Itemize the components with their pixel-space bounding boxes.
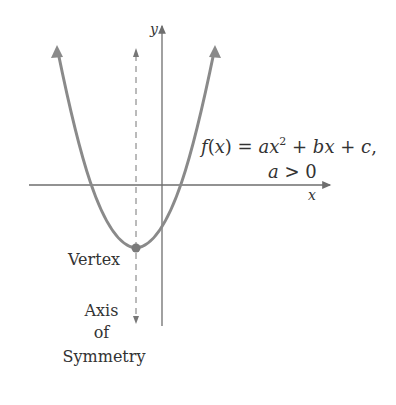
vertex-point [132,244,141,253]
axis-of-symmetry-top-arrow-icon [133,48,139,57]
vertex-label: Vertex [67,250,120,269]
condition-label: a > 0 [268,161,317,182]
y-axis-label: y [149,21,159,37]
axis-of-symmetry-label: Axis of Symmetry [63,301,146,366]
parabola-diagram: y x f(x) = ax2 + bx + c, a > 0 Vertex Ax… [0,0,396,405]
function-label: f(x) = ax2 + bx + c, [199,135,377,157]
axis-of-symmetry-bottom-arrow-icon [133,316,139,324]
x-axis-label: x [308,187,316,203]
left-arrowhead-icon [51,45,63,58]
right-arrowhead-icon [209,45,221,58]
